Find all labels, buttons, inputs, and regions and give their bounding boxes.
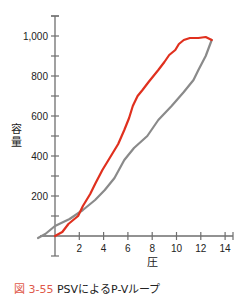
x-ticks: 2468101214 — [77, 232, 233, 254]
figure-caption: 図 3-55 PSVによるP-Vループ — [14, 280, 160, 296]
y-tick-label: 200 — [31, 191, 48, 202]
axes: 2004006008001,000 2468101214 — [23, 16, 233, 256]
series-line-inflation — [55, 37, 212, 236]
figure-caption-text: PSVによるP-Vループ — [57, 283, 160, 296]
y-axis-title-char-1: 容 — [11, 122, 22, 136]
x-tick-label: 10 — [171, 243, 183, 254]
series-layer — [38, 37, 212, 238]
x-tick-label: 12 — [195, 243, 207, 254]
x-tick-label: 4 — [101, 243, 107, 254]
x-tick-label: 8 — [149, 243, 155, 254]
x-tick-label: 14 — [220, 243, 232, 254]
y-tick-label: 1,000 — [23, 31, 48, 42]
figure-number: 図 3-55 — [14, 283, 53, 296]
y-axis-title-char-2: 量 — [11, 136, 22, 149]
y-tick-label: 600 — [31, 111, 48, 122]
x-axis-title: 圧 — [147, 256, 158, 269]
x-tick-label: 6 — [125, 243, 131, 254]
y-ticks: 2004006008001,000 — [23, 16, 59, 256]
y-tick-label: 800 — [31, 71, 48, 82]
series-line-deflation — [38, 40, 212, 238]
y-tick-label: 400 — [31, 151, 48, 162]
x-tick-label: 2 — [77, 243, 83, 254]
